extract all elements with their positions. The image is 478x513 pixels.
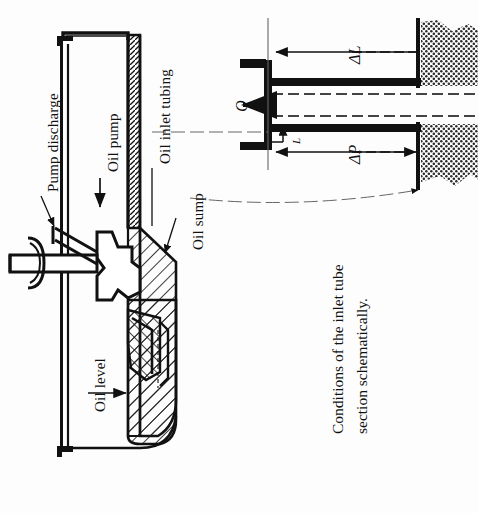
pump-shaft — [10, 226, 97, 288]
figure-page: Pump discharge Oil pump Oil inlet tubing… — [0, 0, 478, 513]
label-oil-sump: Oil sump — [191, 193, 206, 250]
label-delta-l: ΔL — [347, 46, 363, 64]
label-delta-p: ΔP — [347, 145, 363, 164]
label-oil-inlet-tubing: Oil inlet tubing — [158, 69, 173, 164]
label-oil-pump: Oil pump — [106, 113, 121, 172]
figure-artwork — [0, 0, 478, 513]
label-tube-wall-l: L — [291, 138, 302, 144]
caption-line-1: Conditions of the inlet tube — [330, 264, 346, 434]
callout-connector-lines — [152, 132, 418, 203]
caption-line-2: section schematically. — [354, 298, 370, 434]
label-oil-level: Oil level — [93, 358, 108, 412]
label-pump-discharge: Pump discharge — [46, 93, 61, 192]
inlet-tube-detail-drawing — [240, 18, 478, 190]
label-flow-rate-q: Q — [234, 100, 250, 112]
